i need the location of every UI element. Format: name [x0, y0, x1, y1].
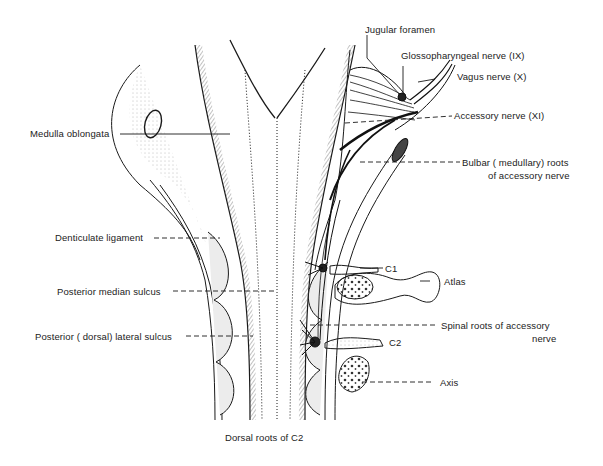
anatomy-diagram: Jugular foramen Glossopharyngeal nerve (… [0, 0, 603, 466]
label-posterior-lateral-sulcus: Posterior ( dorsal) lateral sulcus [35, 331, 172, 342]
label-axis: Axis [440, 377, 458, 388]
label-spinal-roots-cont: nerve [532, 333, 556, 344]
label-c1: C1 [385, 263, 397, 274]
label-dorsal-roots-c2: Dorsal roots of C2 [225, 432, 303, 443]
label-vagus-nerve: Vagus nerve (X) [457, 71, 526, 82]
vertebrae [325, 265, 440, 392]
label-c2: C2 [389, 337, 401, 348]
label-glossopharyngeal-nerve: Glossopharyngeal nerve (IX) [401, 50, 525, 61]
label-denticulate-ligament: Denticulate ligament [55, 232, 143, 243]
label-accessory-nerve: Accessory nerve (XI) [454, 110, 544, 121]
label-bulbar-roots: Bulbar ( medullary) roots [462, 157, 569, 168]
label-bulbar-roots-cont: of accessory nerve [488, 170, 570, 181]
label-atlas: Atlas [444, 276, 466, 287]
label-posterior-median-sulcus: Posterior median sulcus [57, 286, 161, 297]
label-jugular-foramen: Jugular foramen [365, 24, 435, 35]
label-spinal-roots: Spinal roots of accessory [441, 320, 550, 331]
leader-lines [120, 35, 460, 382]
label-medulla-oblongata: Medulla oblongata [30, 128, 109, 139]
